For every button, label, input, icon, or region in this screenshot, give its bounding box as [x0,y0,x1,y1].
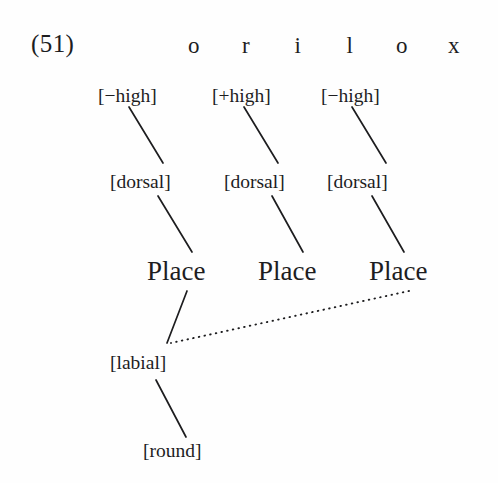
feature-high-1: [−high] [98,86,157,106]
node-place-3: Place [369,258,427,285]
segmental-tier: orilox [168,33,480,59]
segment-o-2: o [376,33,428,59]
place3-spreading-to-labial [171,291,409,343]
node-round: [round] [143,441,201,461]
node-place-1: Place [147,258,205,285]
node-dorsal-2: [dorsal] [224,172,285,192]
autosegmental-diagram: (51) orilox [−high] [+high] [−high] [dor… [0,0,498,483]
high2-to-dorsal2 [244,107,278,163]
high1-to-dorsal1 [129,107,163,163]
node-place-2: Place [258,258,316,285]
feature-high-2: [+high] [212,86,271,106]
node-labial: [labial] [110,353,166,373]
dorsal2-to-place2 [272,196,303,252]
high3-to-dorsal3 [352,107,386,163]
association-line-layer [0,0,498,483]
labial-to-round [156,380,186,437]
segment-o-1: o [168,33,220,59]
segment-r: r [220,33,272,59]
place1-to-labial [167,291,187,343]
node-dorsal-3: [dorsal] [327,172,388,192]
segment-x: x [428,33,480,59]
dorsal3-to-place3 [372,196,404,252]
segment-l: l [324,33,376,59]
dotted-association-lines [171,291,409,343]
feature-high-3: [−high] [321,86,380,106]
example-number: (51) [31,31,74,56]
segment-i: i [272,33,324,59]
node-dorsal-1: [dorsal] [110,172,171,192]
dorsal1-to-place1 [158,196,192,252]
